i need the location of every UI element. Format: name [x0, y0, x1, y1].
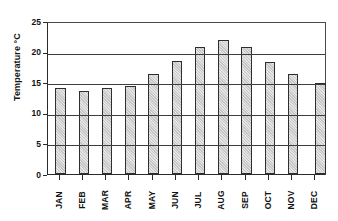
x-label-apr: APR — [123, 180, 133, 220]
bar-oct — [265, 62, 276, 174]
y-tick-label: 20 — [21, 48, 41, 57]
x-label-sep: SEP — [240, 180, 250, 220]
y-tick-label: 5 — [21, 140, 41, 149]
bar-jul — [195, 47, 206, 174]
bar-nov — [288, 74, 299, 174]
bar-mar — [102, 88, 113, 174]
bar-feb — [79, 91, 90, 174]
bars-layer — [48, 23, 325, 174]
plot-area — [47, 22, 326, 175]
x-label-may: MAY — [147, 180, 157, 220]
y-tick-label: 0 — [21, 171, 41, 180]
bar-apr — [125, 86, 136, 174]
x-axis-category-labels: JANFEBMARAPRMAYJUNJULAUGSEPOCTNOVDEC — [47, 181, 326, 221]
y-tick-label: 25 — [21, 18, 41, 27]
x-label-jan: JAN — [54, 180, 64, 220]
x-label-jun: JUN — [170, 180, 180, 220]
x-label-oct: OCT — [263, 180, 273, 220]
bar-jun — [172, 61, 183, 174]
x-label-nov: NOV — [286, 180, 296, 220]
bar-sep — [241, 47, 252, 174]
x-label-feb: FEB — [77, 180, 87, 220]
bar-jan — [55, 88, 66, 174]
y-tick-label: 10 — [21, 109, 41, 118]
y-axis-tick-labels: 0510152025 — [14, 0, 41, 221]
bar-may — [148, 74, 159, 174]
y-tick-label: 15 — [21, 79, 41, 88]
x-label-mar: MAR — [100, 180, 110, 220]
x-label-dec: DEC — [309, 180, 319, 220]
x-label-jul: JUL — [193, 180, 203, 220]
bar-aug — [218, 40, 229, 174]
temperature-bar-chart: Temperature °C 0510152025 JANFEBMARAPRMA… — [0, 0, 338, 221]
bar-dec — [315, 83, 326, 174]
x-label-aug: AUG — [216, 180, 226, 220]
